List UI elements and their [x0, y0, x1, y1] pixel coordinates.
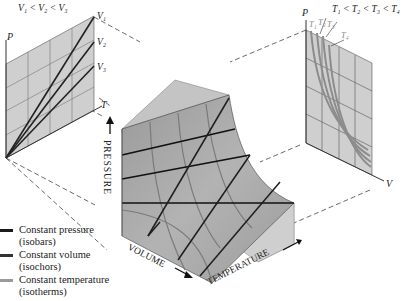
pt-axis-t: T: [101, 99, 108, 110]
pt-curve-label-v2: V₂: [97, 37, 107, 47]
isobar-swatch-icon: [0, 229, 13, 232]
legend-sublabel: (isobars): [19, 236, 94, 248]
legend-label: Constant volume: [19, 249, 90, 261]
legend-label: Constant temperature: [19, 274, 109, 286]
pv-panel-title: T₁ < T₂ < T₃ < T₄: [332, 4, 400, 14]
isotherm-swatch-icon: [0, 279, 13, 282]
pt-curve-label-v3: V₃: [97, 62, 106, 72]
legend: Constant pressure (isobars) Constant vol…: [0, 224, 140, 299]
isochor-swatch-icon: [0, 254, 13, 257]
pt-axis-p: P: [6, 31, 13, 42]
pv-curve-label-t1: T₁: [309, 19, 317, 29]
pt-panel: [6, 16, 102, 158]
pv-axis-p: P: [301, 7, 308, 18]
pressure-axis-arrow: [106, 116, 114, 134]
legend-item-isobars: Constant pressure (isobars): [0, 224, 140, 248]
pv-curve-label-t4: T₄: [341, 30, 349, 40]
pv-curve-label-t2: T₂: [318, 17, 326, 27]
pt-curve-label-v1: V₁: [97, 11, 106, 21]
pressure-axis-label: PRESSURE: [102, 140, 112, 195]
legend-label: Constant pressure: [19, 224, 94, 236]
legend-sublabel: (isotherms): [19, 286, 109, 298]
legend-item-isochors: Constant volume (isochors): [0, 249, 140, 273]
legend-sublabel: (isochors): [19, 261, 90, 273]
pv-panel: [306, 18, 384, 181]
pv-axis-v: V: [386, 178, 394, 189]
legend-item-isotherms: Constant temperature (isotherms): [0, 274, 140, 298]
pt-panel-title: V₁ < V₂ < V₃: [18, 3, 68, 13]
pv-curve-label-t3: T₃: [327, 19, 335, 29]
